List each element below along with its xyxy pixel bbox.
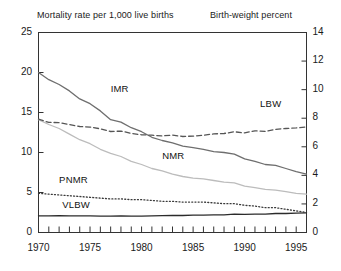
left-tick-label-10: 10: [6, 146, 32, 157]
series-label-vlbw: VLBW: [62, 199, 90, 210]
series-line-lbw: [39, 119, 307, 136]
chart-figure: Mortality rate per 1,000 live births Bir…: [0, 0, 341, 271]
data-series-group: [39, 73, 307, 217]
right-tick-label-8: 8: [313, 111, 339, 122]
right-tick-label-6: 6: [313, 140, 339, 151]
x-tick-label-1970: 1970: [19, 242, 59, 253]
series-line-vlbw: [39, 213, 307, 216]
right-tick-label-12: 12: [313, 54, 339, 65]
plot-canvas: [0, 0, 341, 271]
right-tick-label-0: 0: [313, 226, 339, 237]
x-tick-label-1980: 1980: [122, 242, 162, 253]
x-tick-label-1975: 1975: [70, 242, 110, 253]
left-tick-label-20: 20: [6, 66, 32, 77]
series-label-lbw: LBW: [260, 98, 281, 109]
series-label-nmr: NMR: [162, 150, 184, 161]
series-label-imr: IMR: [111, 83, 129, 94]
right-tick-label-10: 10: [313, 83, 339, 94]
right-tick-label-2: 2: [313, 197, 339, 208]
left-tick-label-25: 25: [6, 26, 32, 37]
x-tick-label-1990: 1990: [225, 242, 265, 253]
series-label-pnmr: PNMR: [59, 174, 88, 185]
left-tick-label-5: 5: [6, 186, 32, 197]
right-axis-title: Birth-weight percent: [210, 10, 292, 20]
left-tick-label-15: 15: [6, 106, 32, 117]
left-tick-label-0: 0: [6, 226, 32, 237]
x-tick-label-1995: 1995: [276, 242, 316, 253]
left-axis-title: Mortality rate per 1,000 live births: [37, 10, 174, 20]
right-tick-label-4: 4: [313, 168, 339, 179]
x-tick-label-1985: 1985: [173, 242, 213, 253]
right-tick-label-14: 14: [313, 26, 339, 37]
